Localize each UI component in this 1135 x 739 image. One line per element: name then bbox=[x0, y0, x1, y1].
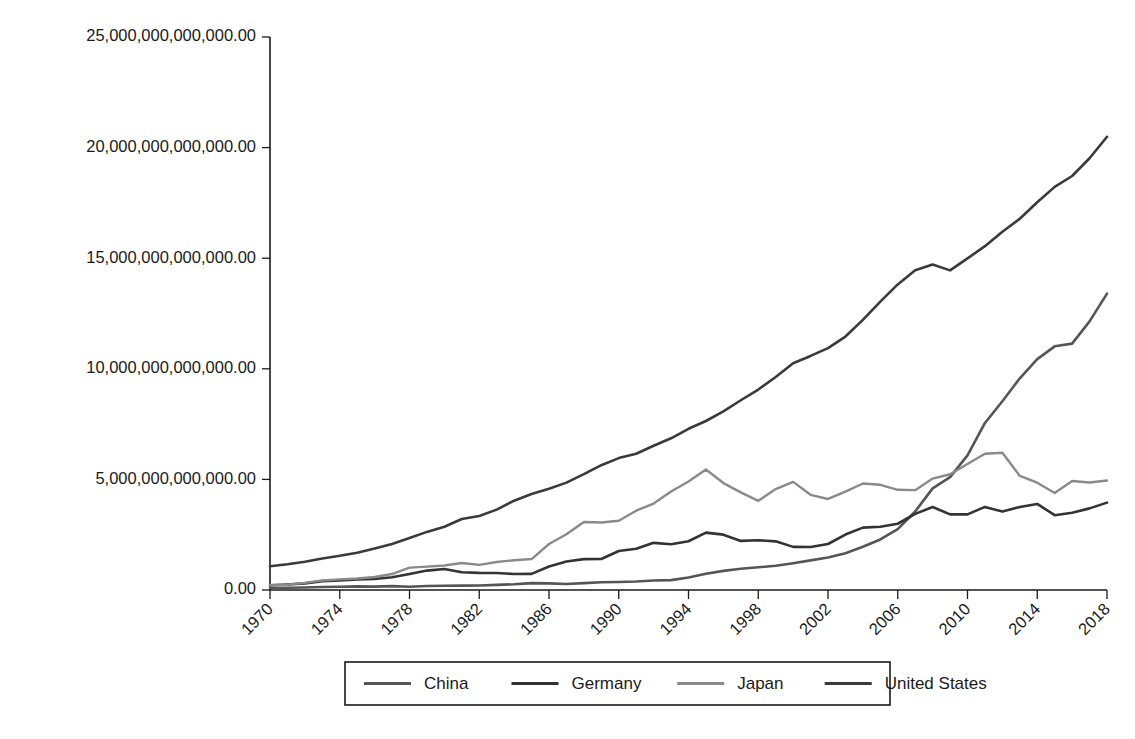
x-axis-tick-marks bbox=[270, 590, 1107, 599]
x-axis-tick-label: 2018 bbox=[1074, 599, 1113, 638]
legend-label: Japan bbox=[737, 674, 783, 693]
series-lines bbox=[270, 137, 1107, 588]
y-axis-tick-labels: 0.005,000,000,000,000.0010,000,000,000,0… bbox=[86, 26, 256, 597]
x-axis-tick-label: 1970 bbox=[237, 599, 276, 638]
x-axis-tick-label: 2010 bbox=[935, 599, 974, 638]
gdp-line-chart: 0.005,000,000,000,000.0010,000,000,000,0… bbox=[0, 0, 1135, 739]
y-axis-tick-label: 15,000,000,000,000.00 bbox=[86, 248, 256, 266]
x-axis-tick-label: 1978 bbox=[377, 599, 416, 638]
chart-canvas: 0.005,000,000,000,000.0010,000,000,000,0… bbox=[0, 0, 1135, 739]
series-line-united-states bbox=[270, 137, 1107, 567]
series-line-japan bbox=[270, 453, 1107, 585]
legend: ChinaGermanyJapanUnited States bbox=[345, 662, 987, 705]
x-axis-tick-label: 2006 bbox=[865, 599, 904, 638]
x-axis-tick-label: 1994 bbox=[656, 599, 695, 638]
y-axis-tick-label: 10,000,000,000,000.00 bbox=[86, 358, 256, 376]
x-axis-tick-label: 2014 bbox=[1005, 599, 1044, 638]
y-axis-tick-label: 0.00 bbox=[224, 579, 256, 597]
legend-label: United States bbox=[885, 674, 987, 693]
x-axis-tick-labels: 1970197419781982198619901994199820022006… bbox=[237, 599, 1113, 638]
legend-label: China bbox=[424, 674, 469, 693]
x-axis-tick-label: 1986 bbox=[516, 599, 555, 638]
legend-label: Germany bbox=[572, 674, 642, 693]
x-axis-tick-label: 1998 bbox=[726, 599, 765, 638]
x-axis: 1970197419781982198619901994199820022006… bbox=[237, 590, 1113, 638]
x-axis-tick-label: 1990 bbox=[586, 599, 625, 638]
x-axis-tick-label: 1974 bbox=[307, 599, 346, 638]
y-axis-tick-label: 5,000,000,000,000.00 bbox=[95, 469, 256, 487]
y-axis-tick-label: 20,000,000,000,000.00 bbox=[86, 137, 256, 155]
x-axis-tick-label: 1982 bbox=[447, 599, 486, 638]
x-axis-tick-label: 2002 bbox=[795, 599, 834, 638]
y-axis-tick-label: 25,000,000,000,000.00 bbox=[86, 26, 256, 44]
y-axis: 0.005,000,000,000,000.0010,000,000,000,0… bbox=[86, 26, 270, 597]
y-axis-tick-marks bbox=[262, 37, 270, 590]
